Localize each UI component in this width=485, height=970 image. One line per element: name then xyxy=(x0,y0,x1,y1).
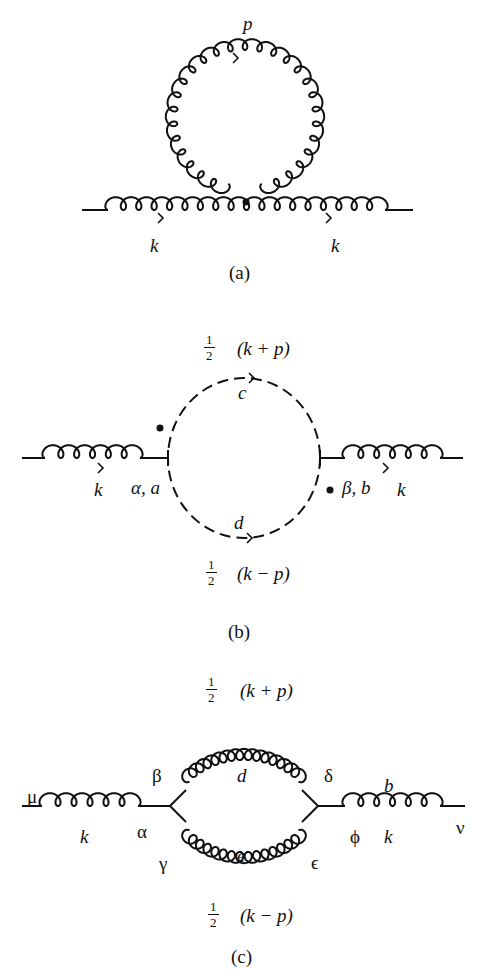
gluon-line-e: e xyxy=(237,846,245,865)
vertex-beta-b: β, b xyxy=(342,478,370,497)
top-momentum-expr-b: (k + p) xyxy=(237,339,290,358)
ghost-line-c: c xyxy=(238,383,246,402)
panel-a-diagram xyxy=(82,39,413,223)
momentum-k-in: k xyxy=(150,236,158,255)
caption-b: (b) xyxy=(228,621,250,643)
index-nu: ν xyxy=(456,818,465,837)
fraction-half-top-b: 1 2 xyxy=(204,333,215,362)
fraction-half-top-c: 1 2 xyxy=(206,675,217,704)
caption-b-text: (b) xyxy=(228,621,250,642)
fraction-den: 2 xyxy=(206,348,213,362)
loop-momentum-p: p xyxy=(243,14,253,33)
fraction-num: 1 xyxy=(208,900,219,915)
bottom-momentum-expr-b: (k − p) xyxy=(237,564,290,583)
caption-a-text: (a) xyxy=(229,262,250,283)
ghost-line-d: d xyxy=(234,513,244,532)
top-momentum-expr-c: (k + p) xyxy=(240,681,293,700)
feynman-diagrams xyxy=(0,0,485,970)
fraction-half-bottom-c: 1 2 xyxy=(208,900,219,929)
caption-c-text: (c) xyxy=(231,946,252,967)
fraction-den: 2 xyxy=(210,915,217,929)
fraction-den: 2 xyxy=(208,690,215,704)
color-b: b xyxy=(384,776,394,795)
momentum-k-out: k xyxy=(331,236,339,255)
momentum-k-right-c: k xyxy=(384,827,392,846)
index-alpha: α xyxy=(137,822,147,841)
momentum-k-out-b: k xyxy=(397,480,405,499)
caption-a: (a) xyxy=(229,262,250,284)
fraction-den: 2 xyxy=(208,573,215,587)
index-phi: ϕ xyxy=(350,827,360,846)
index-mu: μ xyxy=(27,787,37,806)
index-beta: β xyxy=(152,766,162,785)
index-delta: δ xyxy=(324,766,333,785)
fraction-num: 1 xyxy=(204,333,215,348)
fraction-half-bottom-b: 1 2 xyxy=(206,558,217,587)
gluon-line-d: d xyxy=(237,766,247,785)
caption-c: (c) xyxy=(231,946,252,968)
bottom-momentum-expr-c: (k − p) xyxy=(240,906,293,925)
vertex-alpha-a: α, a xyxy=(131,478,160,497)
momentum-k-left-c: k xyxy=(80,827,88,846)
fraction-num: 1 xyxy=(206,675,217,690)
fraction-num: 1 xyxy=(206,558,217,573)
index-gamma: γ xyxy=(159,854,167,873)
momentum-k-in-b: k xyxy=(94,480,102,499)
index-epsilon: ϵ xyxy=(311,853,319,872)
